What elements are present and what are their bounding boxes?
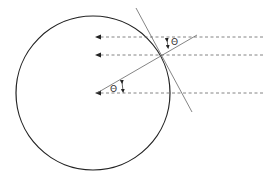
theta-label-bottom: Θ bbox=[110, 84, 117, 94]
arrowhead-icon bbox=[95, 35, 101, 40]
diagram-canvas: Θ Θ bbox=[0, 0, 275, 183]
ray-arrowheads bbox=[95, 35, 101, 96]
angle-marker-bottom bbox=[122, 82, 123, 91]
arrowhead-icon bbox=[95, 53, 101, 58]
theta-label-top: Θ bbox=[171, 37, 178, 47]
incident-rays bbox=[100, 37, 263, 93]
angle-marker-top bbox=[167, 40, 168, 47]
tangent-line bbox=[136, 8, 192, 112]
